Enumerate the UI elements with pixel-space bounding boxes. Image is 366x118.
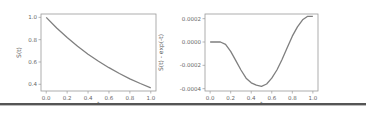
x-tick-label: 0.8	[288, 95, 297, 101]
data-line	[46, 17, 151, 88]
y-tick-label: 1.0	[28, 14, 37, 20]
x-tick-label: 0.0	[42, 95, 51, 101]
data-line	[210, 16, 313, 86]
x-tick-label: 0.2	[226, 95, 235, 101]
x-tick-label: 1.0	[308, 95, 317, 101]
y-tick-label: 0.0002	[182, 16, 201, 22]
y-tick-label: 0.6	[28, 59, 37, 65]
axes-frame	[205, 14, 318, 91]
x-tick-label: 0.4	[84, 95, 93, 101]
x-tick-label: 0.6	[267, 95, 276, 101]
x-tick-label: 1.0	[146, 95, 155, 101]
y-tick-label: 0.8	[28, 37, 37, 43]
y-tick-label: 0.0000	[182, 39, 202, 45]
left-plot: 0.00.20.40.60.81.00.40.60.81.0tS(t)	[15, 14, 156, 107]
x-tick-label: 0.6	[105, 95, 114, 101]
x-tick-label: 0.4	[247, 95, 256, 101]
axes-frame	[41, 14, 156, 91]
y-tick-label: -0.0004	[180, 86, 202, 92]
separator-shadow	[0, 105, 366, 106]
y-tick-label: -0.0002	[180, 62, 201, 68]
y-tick-label: 0.4	[28, 81, 37, 87]
right-plot: 0.00.20.40.60.81.00.00020.0000-0.0002-0.…	[157, 14, 318, 107]
figure: 0.00.20.40.60.81.00.40.60.81.0tS(t) 0.00…	[0, 0, 366, 118]
x-tick-label: 0.8	[125, 95, 134, 101]
x-tick-label: 0.2	[63, 95, 72, 101]
y-axis-label: S(t)	[15, 47, 22, 58]
x-tick-label: 0.0	[206, 95, 215, 101]
y-axis-label: S(t) - exp(-t)	[157, 34, 165, 71]
